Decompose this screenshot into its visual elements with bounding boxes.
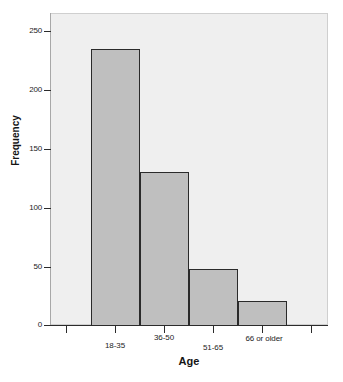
y-tick-150 (44, 149, 51, 150)
x-tick-label-18-35: 18-35 (105, 341, 125, 350)
y-axis-title: Frequency (10, 96, 21, 186)
x-tick-label-66-or-older: 66 or older (245, 334, 282, 343)
x-tick-label-51-65: 51-65 (203, 343, 223, 352)
x-tick-66-or-older (262, 326, 263, 333)
y-tick-label-0: 0 (38, 321, 42, 329)
y-tick-label-200: 200 (29, 86, 42, 94)
y-axis-line (50, 13, 51, 326)
x-tick-36-50 (164, 326, 165, 333)
y-tick-label-50: 50 (34, 263, 43, 271)
y-tick-label-150: 150 (29, 145, 42, 153)
x-tick-trailing (311, 326, 312, 333)
y-tick-label-100: 100 (29, 204, 42, 212)
bar-36-50 (140, 172, 189, 326)
y-tick-250 (44, 31, 51, 32)
y-tick-200 (44, 90, 51, 91)
histogram-chart: 250 200 150 100 50 0 18-35 36-50 51-65 6… (0, 0, 343, 382)
x-tick-18-35 (115, 326, 116, 333)
bar-51-65 (189, 269, 238, 326)
x-tick-51-65 (213, 326, 214, 333)
y-tick-50 (44, 267, 51, 268)
y-tick-100 (44, 208, 51, 209)
y-tick-label-250: 250 (29, 27, 42, 35)
x-tick-label-36-50: 36-50 (154, 333, 174, 342)
bar-18-35 (91, 49, 140, 326)
bar-66-or-older (238, 301, 287, 326)
x-tick-leading (66, 326, 67, 333)
x-axis-line (50, 325, 328, 326)
x-axis-title: Age (50, 355, 328, 367)
